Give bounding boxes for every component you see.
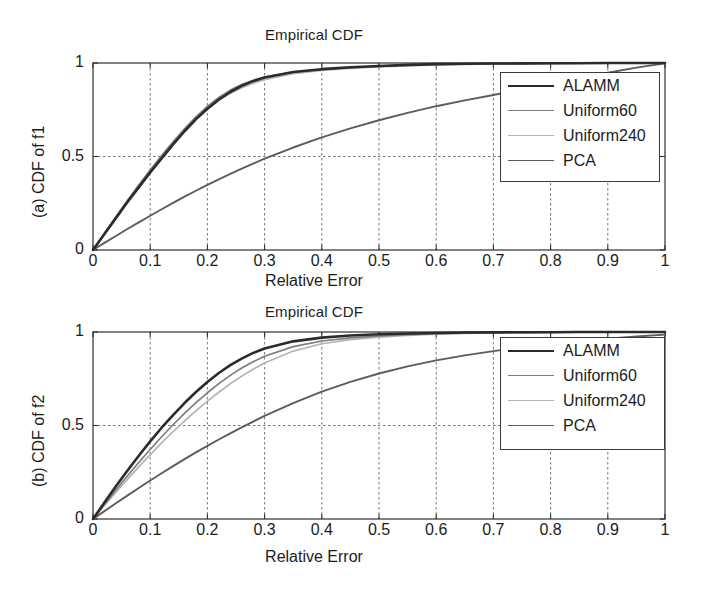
y-axis-label-b: (b) CDF of f2	[30, 395, 48, 487]
x-tick-label: 0.9	[586, 252, 630, 270]
legend-a: ALAMMUniform60Uniform240PCA	[500, 72, 660, 182]
x-axis-label-b: Relative Error	[0, 548, 666, 566]
legend-label: PCA	[563, 153, 596, 169]
chart-title-a: Empirical CDF	[0, 26, 666, 43]
y-tick-label: 1	[38, 322, 84, 340]
y-tick-label: 0	[38, 240, 84, 258]
x-tick-label: 1	[643, 521, 687, 539]
legend-label: Uniform240	[563, 393, 646, 409]
x-tick-label: 0.2	[185, 252, 229, 270]
y-tick-label: 0	[38, 509, 84, 527]
legend-item[interactable]: Uniform240	[501, 123, 659, 148]
x-tick-label: 0.3	[243, 521, 287, 539]
x-tick-label: 1	[643, 252, 687, 270]
chart-panel-a: Empirical CDF (a) CDF of f1 Relative Err…	[0, 0, 704, 300]
legend-item[interactable]: ALAMM	[501, 338, 664, 363]
x-tick-label: 0.8	[529, 521, 573, 539]
legend-swatch-uniform60	[508, 110, 554, 111]
y-tick-label: 1	[38, 53, 84, 71]
legend-swatch-pca	[508, 425, 554, 426]
x-tick-label: 0.4	[300, 521, 344, 539]
x-tick-label: 0.9	[586, 521, 630, 539]
legend-label: Uniform60	[563, 368, 637, 384]
legend-item[interactable]: ALAMM	[501, 73, 659, 98]
legend-item[interactable]: Uniform240	[501, 388, 664, 413]
legend-label: ALAMM	[563, 78, 620, 94]
x-tick-label: 0.5	[357, 521, 401, 539]
legend-label: PCA	[563, 418, 596, 434]
legend-swatch-alamm	[508, 350, 554, 352]
x-tick-label: 0.6	[414, 521, 458, 539]
empirical-cdf-figure: Empirical CDF (a) CDF of f1 Relative Err…	[0, 0, 704, 595]
legend-label: ALAMM	[563, 343, 620, 359]
legend-swatch-uniform240	[508, 400, 554, 401]
chart-panel-b: Empirical CDF (b) CDF of f2 Relative Err…	[0, 295, 704, 595]
legend-label: Uniform240	[563, 128, 646, 144]
legend-swatch-uniform60	[508, 375, 554, 376]
y-tick-label: 0.5	[38, 147, 84, 165]
x-tick-label: 0.1	[128, 521, 172, 539]
x-tick-label: 0.8	[529, 252, 573, 270]
chart-title-b: Empirical CDF	[0, 303, 666, 320]
legend-item[interactable]: PCA	[501, 148, 659, 173]
x-tick-label: 0.1	[128, 252, 172, 270]
x-tick-label: 0.6	[414, 252, 458, 270]
x-tick-label: 0.2	[185, 521, 229, 539]
legend-item[interactable]: PCA	[501, 413, 664, 438]
legend-swatch-alamm	[508, 85, 554, 87]
legend-swatch-uniform240	[508, 135, 554, 136]
x-tick-label: 0.5	[357, 252, 401, 270]
x-tick-label: 0.7	[471, 521, 515, 539]
y-axis-label-a: (a) CDF of f1	[30, 126, 48, 218]
x-tick-label: 0.3	[243, 252, 287, 270]
legend-label: Uniform60	[563, 103, 637, 119]
legend-b: ALAMMUniform60Uniform240PCA	[500, 337, 665, 450]
x-tick-label: 0.7	[471, 252, 515, 270]
legend-swatch-pca	[508, 160, 554, 161]
x-axis-label-a: Relative Error	[0, 272, 666, 290]
x-tick-label: 0.4	[300, 252, 344, 270]
legend-item[interactable]: Uniform60	[501, 98, 659, 123]
y-tick-label: 0.5	[38, 416, 84, 434]
legend-item[interactable]: Uniform60	[501, 363, 664, 388]
